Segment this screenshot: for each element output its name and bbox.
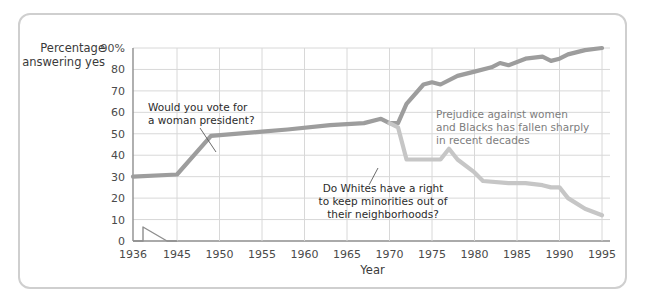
x-axis-tick-label: 1936 bbox=[119, 248, 147, 261]
x-axis-tick-label: 1970 bbox=[376, 248, 404, 261]
y-axis-tick-label: 20 bbox=[111, 192, 125, 205]
y-axis-tick-label: 10 bbox=[111, 214, 125, 227]
x-axis-tick-label: 1985 bbox=[503, 248, 531, 261]
annotation-prejudice-fallen-line2: and Blacks has fallen sharply bbox=[436, 121, 589, 133]
annotation-woman-president-line1: Would you vote for bbox=[148, 101, 248, 113]
x-axis-tick-label: 1955 bbox=[248, 248, 276, 261]
annotation-prejudice-fallen-line3: in recent decades bbox=[436, 134, 530, 146]
line-chart: 0102030405060708090%19361945195019551960… bbox=[20, 15, 625, 287]
annotation-whites-neighborhoods-line1: Do Whites have a right bbox=[323, 182, 444, 194]
x-axis-tick-label: 1950 bbox=[206, 248, 234, 261]
chart-frame: 0102030405060708090%19361945195019551960… bbox=[18, 13, 627, 289]
x-axis-break-zigzag bbox=[133, 227, 177, 241]
x-axis-tick-label: 1975 bbox=[418, 248, 446, 261]
annotation-whites-neighborhoods-line3: their neighborhoods? bbox=[327, 208, 439, 220]
x-axis-tick-label: 1965 bbox=[333, 248, 361, 261]
y-axis-tick-label: 60 bbox=[111, 106, 125, 119]
y-axis-tick-label: 30 bbox=[111, 171, 125, 184]
annotation-whites-neighborhoods-line2: to keep minorities out of bbox=[319, 195, 448, 207]
y-axis-tick-label: 0 bbox=[118, 235, 125, 248]
y-axis-tick-label: 50 bbox=[111, 128, 125, 141]
y-axis-tick-label: 80 bbox=[111, 63, 125, 76]
y-axis-title-line1: Percentage bbox=[40, 41, 105, 55]
y-axis-tick-label: 40 bbox=[111, 149, 125, 162]
annotation-woman-president-line2: a woman president? bbox=[148, 114, 255, 126]
chart-screenshot: 0102030405060708090%19361945195019551960… bbox=[0, 0, 645, 306]
x-axis-tick-label: 1945 bbox=[163, 248, 191, 261]
y-axis-title-line2: answering yes bbox=[22, 55, 105, 69]
x-axis-title: Year bbox=[359, 263, 385, 277]
x-axis-tick-label: 1990 bbox=[546, 248, 574, 261]
x-axis-tick-label: 1995 bbox=[588, 248, 616, 261]
annotation-prejudice-fallen-line1: Prejudice against women bbox=[436, 108, 568, 120]
x-axis-tick-label: 1980 bbox=[461, 248, 489, 261]
x-axis-tick-label: 1960 bbox=[291, 248, 319, 261]
y-axis-tick-label: 70 bbox=[111, 85, 125, 98]
